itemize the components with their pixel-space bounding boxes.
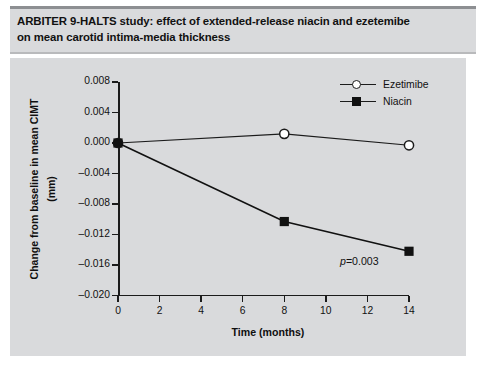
title-bottom-rule	[10, 52, 476, 54]
filled-square-marker-icon	[340, 96, 376, 108]
data-point-marker	[280, 217, 289, 226]
figure-title-line-2: on mean carotid intima-media thickness	[17, 29, 469, 45]
series-ezetimibe	[113, 129, 413, 150]
data-point-marker	[404, 247, 413, 256]
chart-panel: Change from baseline in mean CIMT (mm) 0…	[10, 58, 466, 356]
pvalue-annotation: p=0.003	[340, 255, 379, 267]
legend-label-ezetimibe: Ezetimibe	[383, 79, 429, 90]
open-circle-marker-icon	[340, 79, 376, 91]
data-point-marker	[113, 138, 122, 147]
figure-title-line-1: ARBITER 9-HALTS study: effect of extende…	[17, 13, 469, 29]
legend-item-ezetimibe[interactable]: Ezetimibe	[340, 76, 429, 93]
chart-legend: Ezetimibe Niacin	[340, 76, 429, 110]
series-line	[118, 134, 409, 145]
legend-label-niacin: Niacin	[383, 96, 412, 107]
figure-title: ARBITER 9-HALTS study: effect of extende…	[17, 13, 469, 45]
series-niacin	[113, 138, 413, 255]
data-point-marker	[280, 129, 289, 138]
data-point-marker	[404, 141, 413, 150]
pvalue-value: =0.003	[346, 255, 379, 267]
series-line	[118, 143, 409, 251]
legend-item-niacin[interactable]: Niacin	[340, 93, 429, 110]
figure-container: ARBITER 9-HALTS study: effect of extende…	[0, 0, 484, 371]
